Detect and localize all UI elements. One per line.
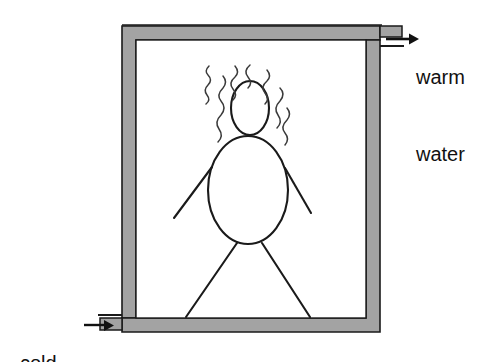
inlet-pipe [98, 315, 122, 330]
warm-water-label: warm water [416, 14, 465, 219]
warm-water-label-line1: warm [416, 65, 465, 91]
outlet-pipe-stub [380, 26, 402, 37]
warm-water-label-line2: water [416, 142, 465, 168]
cold-water-label-line1: cold [20, 351, 69, 362]
cold-water-label: cold water [20, 300, 69, 362]
diagram-root: warm water cold water [0, 0, 498, 362]
shower-enclosure [122, 25, 382, 332]
outlet-pipe [380, 26, 404, 46]
